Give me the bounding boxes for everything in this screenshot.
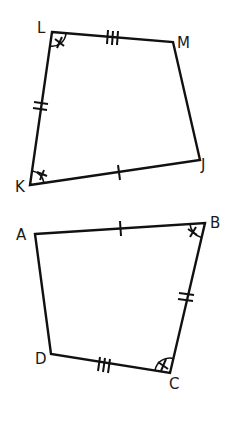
side-jk-single-tick — [118, 165, 120, 180]
quadrilateral-abcd: A B C D — [16, 214, 220, 393]
vertex-label-j: J — [200, 156, 205, 174]
vertex-label-l: L — [37, 19, 46, 37]
quadrilateral-lmjk: L M J K — [15, 19, 205, 196]
quadrilateral-lmjk-outline — [30, 32, 200, 185]
vertex-label-b: B — [210, 214, 220, 232]
vertex-label-k: K — [15, 178, 26, 196]
congruent-quadrilaterals-diagram: L M J K — [0, 0, 236, 421]
quadrilateral-abcd-outline — [35, 223, 205, 373]
vertex-label-m: M — [177, 34, 190, 52]
vertex-label-a: A — [16, 226, 27, 244]
angle-k-mark — [33, 170, 48, 183]
angle-b-mark — [188, 224, 202, 238]
vertex-label-d: D — [35, 350, 47, 368]
vertex-label-c: C — [169, 375, 179, 393]
side-cd-triple-tick — [98, 357, 110, 373]
side-ab-single-tick — [120, 221, 121, 236]
side-bc-double-tick — [178, 293, 194, 301]
